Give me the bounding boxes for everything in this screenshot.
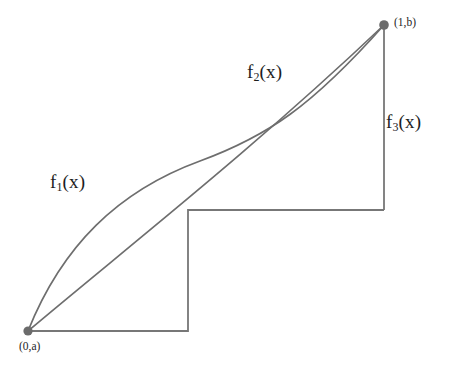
- f2-label: f2(x): [247, 62, 282, 81]
- f2-label-arg: (x): [260, 61, 283, 82]
- f2-label-base: f: [247, 61, 254, 82]
- step-baseline-path: [28, 210, 384, 331]
- f1-label-arg: (x): [63, 171, 86, 192]
- f3-label-subscript: 3: [393, 120, 399, 134]
- f1-label: f1(x): [50, 172, 85, 191]
- f3-label-base: f: [386, 111, 393, 132]
- start-point-label: (0,a): [19, 341, 40, 353]
- f3-label-arg: (x): [399, 111, 422, 132]
- f3-label: f3(x): [386, 112, 421, 131]
- end-point-label: (1,b): [394, 17, 416, 29]
- end-point-dot: [379, 20, 389, 30]
- f1-label-base: f: [50, 171, 57, 192]
- start-point-dot: [23, 326, 32, 335]
- f2-label-subscript: 2: [254, 70, 260, 84]
- f1-label-subscript: 1: [57, 180, 63, 194]
- function-diagram: f1(x) f2(x) f3(x) (0,a) (1,b): [0, 0, 452, 372]
